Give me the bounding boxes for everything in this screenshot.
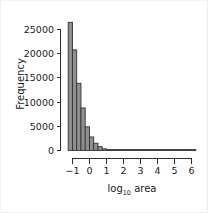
chart-screenshot: 0500010000150002000025000−10123456log10 … xyxy=(0,0,208,213)
histogram-bar xyxy=(145,150,149,151)
y-tick-label: 20000 xyxy=(24,48,54,59)
histogram-bar xyxy=(68,22,72,150)
histogram-bar xyxy=(149,150,153,151)
histogram-bar xyxy=(119,150,123,151)
histogram-bar xyxy=(85,127,89,151)
x-tick-label: 0 xyxy=(86,165,92,176)
histogram-bar xyxy=(106,150,110,151)
histogram-bar xyxy=(89,137,93,151)
x-tick-label: 1 xyxy=(103,165,109,176)
x-tick-label: 2 xyxy=(120,165,126,176)
histogram-bar xyxy=(115,150,119,151)
y-axis-title: Frequency xyxy=(15,58,26,110)
y-tick-label: 25000 xyxy=(24,24,54,35)
histogram-bar xyxy=(175,150,179,151)
y-tick-label: 0 xyxy=(48,145,54,156)
histogram-bar xyxy=(166,150,170,151)
histogram-bar xyxy=(123,150,127,151)
x-axis-title: log10 area xyxy=(107,183,156,197)
histogram-bar xyxy=(102,149,106,151)
histogram-bar xyxy=(136,150,140,151)
histogram-bar xyxy=(187,150,191,151)
histogram-bar xyxy=(72,50,76,151)
histogram-bar xyxy=(153,150,157,151)
x-tick-label: 5 xyxy=(172,165,178,176)
histogram-bar xyxy=(183,150,187,151)
y-tick-label: 10000 xyxy=(24,97,54,108)
histogram-bar xyxy=(132,150,136,151)
histogram-bar xyxy=(98,147,102,151)
histogram-bar xyxy=(158,150,162,151)
histogram-bar xyxy=(141,150,145,151)
y-tick-label: 5000 xyxy=(30,121,54,132)
histogram-bar xyxy=(128,150,132,151)
x-tick-label: 4 xyxy=(154,165,160,176)
histogram-figure: 0500010000150002000025000−10123456log10 … xyxy=(0,0,208,213)
histogram-bar xyxy=(81,108,85,151)
y-tick-label: 15000 xyxy=(24,72,54,83)
histogram-bar xyxy=(94,143,98,150)
histogram-plot: 0500010000150002000025000−10123456log10 … xyxy=(0,0,208,213)
histogram-bar xyxy=(77,83,81,150)
histogram-bar xyxy=(111,150,115,151)
histogram-bar xyxy=(162,150,166,151)
x-tick-label: 6 xyxy=(189,165,195,176)
histogram-bar xyxy=(170,150,174,151)
histogram-bar xyxy=(179,150,183,151)
x-tick-label: 3 xyxy=(137,165,143,176)
x-tick-label: −1 xyxy=(65,165,79,176)
histogram-bar xyxy=(192,150,196,151)
